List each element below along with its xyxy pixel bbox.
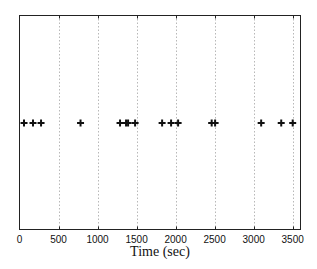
plus-marker — [159, 120, 166, 127]
x-tick-label: 1000 — [86, 234, 109, 245]
plus-marker — [278, 120, 285, 127]
x-tick-label: 500 — [50, 234, 67, 245]
plus-marker — [30, 120, 37, 127]
x-tick-label: 3000 — [243, 234, 266, 245]
x-tick-label: 2500 — [204, 234, 227, 245]
plus-marker — [175, 120, 182, 127]
plus-marker — [38, 120, 45, 127]
plus-marker — [117, 120, 124, 127]
plus-marker — [258, 120, 265, 127]
x-tick-label: 3500 — [282, 234, 305, 245]
x-tick-label: 0 — [17, 234, 23, 245]
event-scatter-chart: 0500100015002000250030003500 Time (sec) — [0, 0, 317, 269]
plus-marker — [289, 120, 296, 127]
plus-marker — [21, 120, 28, 127]
plus-marker — [77, 120, 84, 127]
x-axis-label: Time (sec) — [130, 244, 190, 260]
plus-marker — [168, 120, 175, 127]
